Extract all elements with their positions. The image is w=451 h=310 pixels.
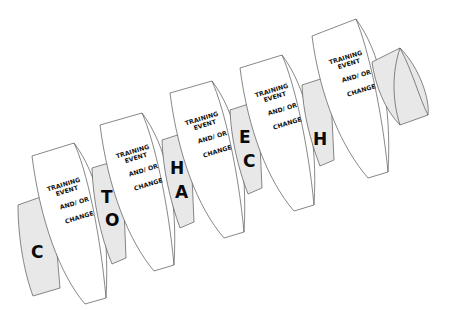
connector-letter: C bbox=[31, 242, 43, 262]
connector-letter-top: H bbox=[170, 158, 184, 178]
coaching-cylinder-diagram: C TRAINING EVENT AND/ OR CHANGE T O TRAI… bbox=[0, 0, 451, 310]
connector-letter-bottom: O bbox=[105, 210, 119, 230]
connector-letter: H bbox=[313, 129, 327, 149]
connector-letter-top: T bbox=[101, 187, 113, 207]
connector-letter-bottom: A bbox=[175, 182, 189, 202]
connector-letter-bottom: C bbox=[243, 151, 255, 171]
connector-letter-top: E bbox=[239, 127, 251, 147]
